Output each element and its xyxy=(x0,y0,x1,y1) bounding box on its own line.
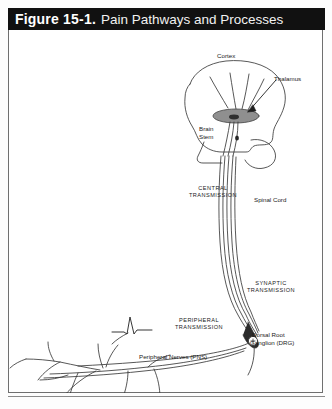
nerve-ending-branch-10 xyxy=(112,333,128,344)
nerve-ending-branch-6 xyxy=(48,342,54,361)
label-spinal-cord: Spinal Cord xyxy=(254,197,286,204)
nerve-ending-branch-7 xyxy=(122,371,128,393)
spinal-cord-tail xyxy=(248,344,254,375)
brain-sulcus-1 xyxy=(210,77,228,108)
brain-sulcus-4 xyxy=(248,79,264,110)
brain-sulcus-3 xyxy=(242,74,249,109)
label-peripheral-transmission-line2: TRANSMISSION xyxy=(172,324,226,330)
nerve-ending-branch-8 xyxy=(154,369,160,393)
thalamus-core xyxy=(229,115,239,120)
nerve-ending-branch-1 xyxy=(64,371,96,393)
spinal-cord-fiber-2 xyxy=(223,156,256,337)
brainstem-relay-node xyxy=(235,135,239,140)
label-drg-line1: Dorsal Root xyxy=(252,332,285,339)
spinal-cord-fiber-5 xyxy=(235,157,259,331)
label-peripheral-nerves: Peripheral Nerves (PNS) xyxy=(139,354,207,361)
label-peripheral-transmission-line1: PERIPHERAL xyxy=(172,317,226,323)
figure-page: Figure 15-1. Pain Pathways and Processes xyxy=(0,0,332,409)
label-thalamus: Thalamus xyxy=(274,76,301,83)
label-central-transmission-line2: TRANSMISSION xyxy=(186,192,240,198)
brain-sulcus-2 xyxy=(230,73,236,109)
figure-bottom-rule xyxy=(8,396,325,397)
figure-number: Figure 15-1. xyxy=(15,11,96,27)
brain-stem-outline xyxy=(197,142,222,163)
label-brain-stem-line2: Stem xyxy=(199,134,213,141)
label-drg-line2: Ganglion (DRG) xyxy=(250,340,294,347)
figure-title-bar: Figure 15-1. Pain Pathways and Processes xyxy=(8,8,325,30)
label-synaptic-transmission-line2: TRANSMISSION xyxy=(244,287,298,293)
cerebellum-outline xyxy=(245,139,276,168)
nerve-ending-branch-12 xyxy=(10,359,26,368)
label-synaptic-transmission-line1: SYNAPTIC xyxy=(244,280,298,286)
label-central-transmission-line1: CENTRAL xyxy=(186,185,240,191)
page-title: Pain Pathways and Processes xyxy=(101,12,283,27)
action-potential-waveform xyxy=(112,317,152,334)
label-cortex: Cortex xyxy=(217,53,235,60)
peripheral-nerve-main-branch xyxy=(26,359,100,370)
label-brain-stem-line1: Brain xyxy=(199,126,213,133)
